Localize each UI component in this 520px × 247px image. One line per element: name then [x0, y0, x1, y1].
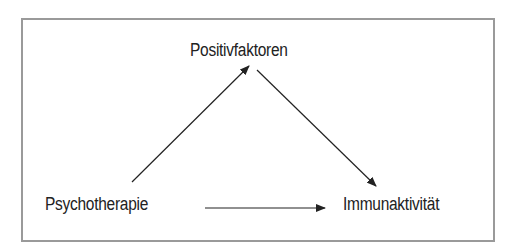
node-psychotherapie: Psychotherapie — [45, 194, 148, 215]
arrow-positivfaktoren-to-immunaktivitaet — [257, 70, 376, 186]
node-immunaktivitaet: Immunaktivität — [343, 194, 439, 215]
node-positivfaktoren: Positivfaktoren — [190, 40, 288, 61]
arrow-psychotherapie-to-positivfaktoren — [132, 66, 249, 182]
